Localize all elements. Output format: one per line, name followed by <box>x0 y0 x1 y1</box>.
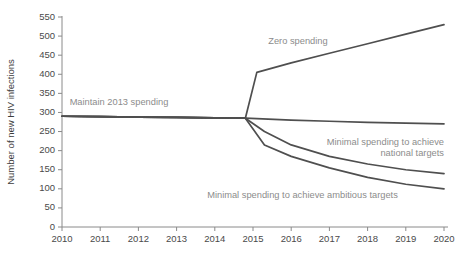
annotation-national-targets-line2: national targets <box>380 148 444 158</box>
annotation-zero-spending: Zero spending <box>268 36 327 46</box>
y-axis-tick-label: 250 <box>39 125 55 136</box>
x-axis-tick-label: 2016 <box>281 233 302 244</box>
x-axis-tick-label: 2012 <box>128 233 149 244</box>
hiv-infections-line-chart: 0501001502002503003504004505005502010201… <box>0 0 460 259</box>
y-axis-tick-label: 300 <box>39 106 55 117</box>
y-axis-title: Number of new HIV infections <box>5 59 16 185</box>
y-axis-tick-label: 350 <box>39 87 55 98</box>
y-axis-tick-label: 450 <box>39 49 55 60</box>
chart-canvas: 0501001502002503003504004505005502010201… <box>0 0 460 259</box>
annotation-ambitious-targets: Minimal spending to achieve ambitious ta… <box>207 190 398 200</box>
annotation-national-targets-line1: Minimal spending to achieve <box>327 137 444 147</box>
x-axis-tick-label: 2015 <box>242 233 263 244</box>
x-axis-tick-label: 2017 <box>319 233 340 244</box>
annotation-maintain-2013-spending: Maintain 2013 spending <box>70 97 169 107</box>
y-axis-tick-label: 200 <box>39 144 55 155</box>
x-axis-tick-label: 2013 <box>166 233 187 244</box>
y-axis-tick-label: 500 <box>39 30 55 41</box>
x-axis-tick-label: 2019 <box>395 233 416 244</box>
y-axis-tick-label: 150 <box>39 163 55 174</box>
y-axis-tick-label: 50 <box>44 201 55 212</box>
x-axis-tick-label: 2018 <box>357 233 378 244</box>
y-axis-tick-label: 400 <box>39 68 55 79</box>
x-axis-tick-label: 2011 <box>90 233 110 244</box>
y-axis-tick-label: 0 <box>50 221 55 232</box>
y-axis-tick-label: 550 <box>39 11 55 22</box>
x-axis-tick-label: 2014 <box>204 233 225 244</box>
y-axis-tick-label: 100 <box>39 182 55 193</box>
x-axis-tick-label: 2010 <box>51 233 72 244</box>
x-axis-tick-label: 2020 <box>433 233 454 244</box>
